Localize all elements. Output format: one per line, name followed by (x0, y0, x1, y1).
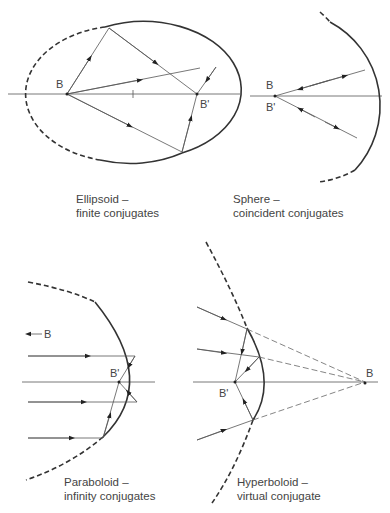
virtual-ray (253, 382, 365, 420)
ray-arrow (129, 356, 135, 366)
virtual-ray (259, 357, 365, 382)
caption-subtitle: coincident conjugates (233, 206, 344, 220)
caption-title: Ellipsoid – (76, 192, 159, 206)
sphere-mirror-dashed-bottom (318, 170, 355, 182)
ellipsoid-mirror-solid-bottom (100, 153, 182, 163)
ellipsoid-mirror-dashed (26, 27, 105, 160)
label-b-prime: B' (110, 367, 119, 379)
caption-title: Hyperboloid – (237, 475, 321, 489)
paraboloid-panel (22, 282, 155, 480)
focus-point-b-prime (196, 93, 199, 96)
label-b-prime: B' (200, 98, 209, 110)
ray-arrow (67, 94, 130, 126)
ray-arrow (300, 109, 315, 117)
ellipsoid-panel (8, 21, 241, 163)
caption-title: Paraboloid – (64, 475, 155, 489)
hyperboloid-mirror-dashed-top (206, 242, 247, 328)
caption-title: Sphere – (233, 192, 344, 206)
label-b: B (44, 328, 51, 340)
ray-arrow (197, 430, 224, 440)
label-b-prime: B' (219, 387, 228, 399)
sphere-panel (250, 12, 382, 182)
focus-point-b (66, 93, 69, 96)
label-b-prime: B' (266, 101, 275, 113)
focus-point-b-prime (118, 381, 121, 384)
hyperboloid-panel (193, 242, 378, 503)
caption-ellipsoid: Ellipsoid – finite conjugates (76, 192, 159, 220)
ray-arrow (197, 307, 224, 319)
label-b: B (266, 79, 273, 91)
ray-arrow (207, 67, 216, 80)
focus-point-b-prime (234, 381, 237, 384)
ray-arrow (242, 329, 247, 352)
paraboloid-mirror-dashed-top (28, 282, 95, 302)
ellipsoid-mirror-solid (105, 21, 241, 153)
conic-mirrors-diagram: B B' B B' B B' B B' (0, 0, 390, 513)
ray-arrow (67, 80, 140, 94)
caption-paraboloid: Paraboloid – infinity conjugates (64, 475, 155, 503)
hyperboloid-mirror (247, 328, 264, 420)
caption-subtitle: virtual conjugate (237, 489, 321, 503)
ray-arrow (247, 357, 259, 370)
focus-point-b (364, 382, 367, 385)
label-b: B (366, 367, 373, 379)
caption-sphere: Sphere – coincident conjugates (233, 192, 344, 220)
label-b: B (56, 78, 63, 90)
ray-arrow (197, 349, 224, 353)
ray-arrow (128, 392, 137, 402)
caption-subtitle: finite conjugates (76, 206, 159, 220)
ray-arrow (109, 28, 156, 63)
virtual-ray (247, 329, 365, 382)
center-point-b (274, 95, 277, 98)
paraboloid-mirror-dashed-bottom (26, 437, 103, 480)
caption-subtitle: infinity conjugates (64, 489, 155, 503)
ray-arrow (244, 401, 253, 420)
ray (275, 96, 357, 138)
sphere-mirror-dashed-top (320, 12, 330, 22)
ray-arrow (67, 58, 90, 94)
ray-arrow (300, 80, 330, 89)
caption-hyperboloid: Hyperboloid – virtual conjugate (237, 475, 321, 503)
ray-arrow (182, 118, 191, 152)
ray-arrow (325, 122, 337, 128)
